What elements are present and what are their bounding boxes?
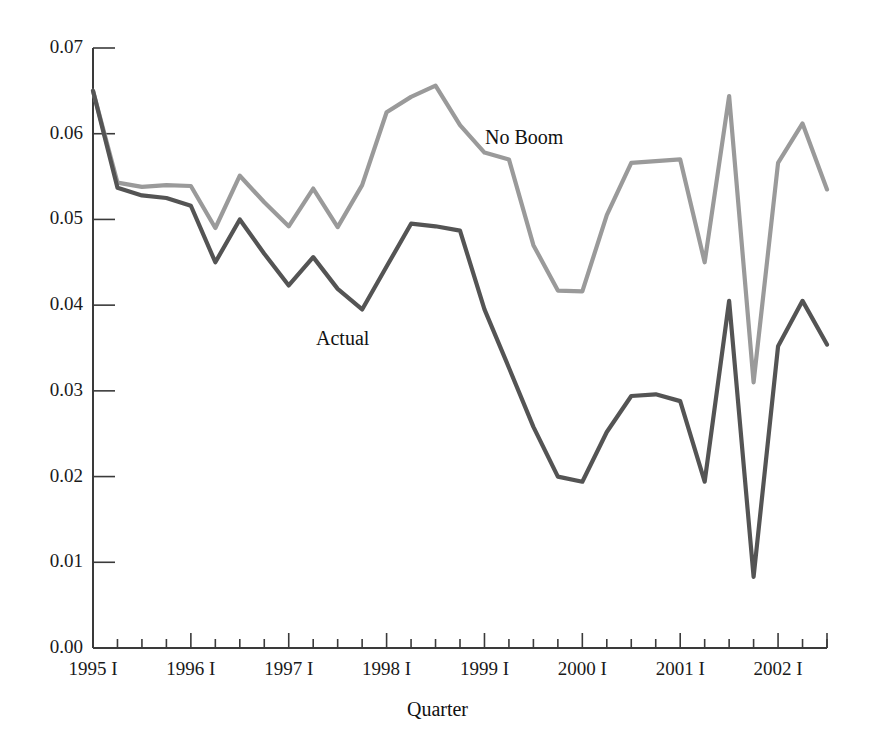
axes bbox=[93, 48, 827, 648]
series-label-actual: Actual bbox=[316, 327, 369, 350]
y-axis-tick-label: 0.01 bbox=[0, 550, 83, 572]
y-axis-tick-label: 0.03 bbox=[0, 379, 83, 401]
series-label-no-boom: No Boom bbox=[485, 126, 563, 149]
chart-figure: 0.000.010.020.030.040.050.060.07 1995 I1… bbox=[0, 0, 875, 748]
y-axis-tick-label: 0.02 bbox=[0, 465, 83, 487]
series-line-actual bbox=[93, 91, 827, 577]
x-axis-tick-label: 2002 I bbox=[718, 658, 838, 680]
data-series bbox=[93, 86, 827, 577]
y-axis-tick-label: 0.07 bbox=[0, 36, 83, 58]
y-axis-tick-label: 0.00 bbox=[0, 636, 83, 658]
y-axis-tick-label: 0.06 bbox=[0, 122, 83, 144]
line-chart-plot bbox=[0, 0, 875, 748]
axis-ticks bbox=[93, 48, 827, 648]
y-axis-tick-label: 0.05 bbox=[0, 207, 83, 229]
y-axis-tick-label: 0.04 bbox=[0, 293, 83, 315]
x-axis-title: Quarter bbox=[0, 698, 875, 721]
